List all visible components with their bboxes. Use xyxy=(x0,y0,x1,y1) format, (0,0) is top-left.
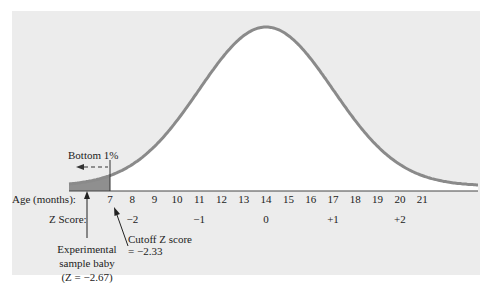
age-tick-label: 12 xyxy=(216,193,227,205)
experimental-baby-label: sample baby xyxy=(59,257,115,269)
z-score-axis-label: Z Score: xyxy=(49,213,87,225)
age-axis-label: Age (months): xyxy=(12,193,76,206)
z-tick-label: 0 xyxy=(263,213,269,225)
age-tick-label: 10 xyxy=(171,193,183,205)
normal-curve-chart: Bottom 1% Age (months): Z Score: 7891011… xyxy=(0,0,491,283)
age-tick-label: 17 xyxy=(328,193,340,205)
age-tick-label: 19 xyxy=(372,193,384,205)
age-tick-label: 7 xyxy=(107,193,113,205)
experimental-baby-label: (Z = −2.67) xyxy=(61,271,113,283)
bottom-arrow-head xyxy=(76,164,84,170)
age-tick-label: 21 xyxy=(417,193,428,205)
age-tick-label: 11 xyxy=(194,193,205,205)
age-tick-label: 15 xyxy=(283,193,295,205)
age-tick-label: 16 xyxy=(305,193,317,205)
age-tick-label: 13 xyxy=(238,193,250,205)
experimental-baby-label: Experimental xyxy=(57,243,116,255)
age-tick-label: 14 xyxy=(261,193,273,205)
z-tick-label: +2 xyxy=(394,213,406,225)
age-tick-label: 20 xyxy=(394,193,406,205)
age-tick-label: 8 xyxy=(130,193,136,205)
bottom-1-percent-label: Bottom 1% xyxy=(68,149,118,161)
age-tick-label: 18 xyxy=(350,193,362,205)
experimental-baby-arrow-head xyxy=(84,191,90,199)
z-tick-label: +1 xyxy=(327,213,339,225)
cutoff-label: Cutoff Z score xyxy=(128,233,192,245)
cutoff-arrow-head xyxy=(114,207,120,216)
z-tick-label: −2 xyxy=(126,213,138,225)
cutoff-label: = −2.33 xyxy=(128,245,163,257)
z-tick-label: −1 xyxy=(193,213,205,225)
age-tick-label: 9 xyxy=(152,193,158,205)
